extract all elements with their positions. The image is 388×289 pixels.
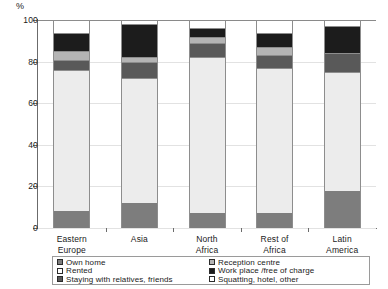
- x-axis-label-line: Asia: [106, 234, 174, 245]
- x-axis-label-line: North: [173, 234, 241, 245]
- legend-item[interactable]: Squatting, hotel, other: [209, 275, 365, 284]
- x-tick-mark: [173, 228, 174, 232]
- bar-segment: [54, 51, 89, 59]
- bar-segment: [54, 33, 89, 52]
- bar-segment: [257, 20, 292, 32]
- legend-item[interactable]: Own home: [57, 258, 209, 267]
- bar-segment: [257, 47, 292, 55]
- x-axis-label-line: Eastern: [38, 234, 106, 245]
- bar-group: [189, 20, 226, 228]
- bar-segment: [122, 24, 157, 57]
- x-tick-mark: [106, 228, 107, 232]
- bar[interactable]: [53, 20, 90, 228]
- legend: Own homeReception centreRentedWork place…: [52, 256, 370, 285]
- bar-segment: [122, 203, 157, 228]
- legend-swatch-icon: [57, 268, 63, 274]
- bar-group: [324, 20, 361, 228]
- bar-group: [53, 20, 90, 228]
- legend-swatch-icon: [57, 276, 63, 282]
- y-tick-label-20: 20: [0, 181, 38, 191]
- legend-item[interactable]: Staying with relatives, friends: [57, 275, 209, 284]
- y-axis-unit-label: %: [16, 1, 24, 11]
- bar-segment: [190, 28, 225, 36]
- bar-segment: [190, 213, 225, 228]
- legend-swatch-icon: [209, 276, 215, 282]
- bar[interactable]: [121, 20, 158, 228]
- bar-segment: [190, 43, 225, 58]
- bar-segment: [54, 60, 89, 70]
- x-axis-label-line: Rest of: [241, 234, 309, 245]
- bar-segment: [122, 62, 157, 79]
- y-tick-label-40: 40: [0, 140, 38, 150]
- legend-item[interactable]: Rented: [57, 267, 209, 276]
- x-axis-label: LatinAmerica: [308, 234, 376, 255]
- x-axis-label-line: America: [308, 245, 376, 256]
- bar[interactable]: [256, 20, 293, 228]
- y-tick-label-100: 100: [0, 15, 38, 25]
- y-tick-label-60: 60: [0, 98, 38, 108]
- bar-segment: [190, 20, 225, 28]
- x-axis-label-line: Europe: [38, 245, 106, 256]
- x-axis-label: NorthAfrica: [173, 234, 241, 255]
- x-axis-label-line: Latin: [308, 234, 376, 245]
- x-axis-label: Rest ofAfrica: [241, 234, 309, 255]
- bar-group: [256, 20, 293, 228]
- bar-segment: [122, 78, 157, 203]
- x-tick-mark: [241, 228, 242, 232]
- x-axis-label-line: Africa: [241, 245, 309, 256]
- bar-segment: [257, 213, 292, 228]
- x-axis-label: Asia: [106, 234, 174, 245]
- bar-segment: [325, 191, 360, 228]
- bar-segment: [325, 72, 360, 191]
- bar-segment: [257, 68, 292, 214]
- bar-segment: [257, 33, 292, 48]
- bar-group: [121, 20, 158, 228]
- bar-segment: [54, 20, 89, 32]
- bar-segment: [54, 70, 89, 211]
- legend-label: Staying with relatives, friends: [66, 275, 173, 284]
- legend-item[interactable]: Reception centre: [209, 258, 365, 267]
- bar-segment: [325, 26, 360, 53]
- legend-swatch-icon: [209, 259, 215, 265]
- bar[interactable]: [324, 20, 361, 228]
- bar-segment: [325, 53, 360, 72]
- legend-label: Squatting, hotel, other: [218, 275, 299, 284]
- gridline-0: [38, 228, 376, 229]
- y-tick-label-0: 0: [0, 223, 38, 233]
- x-axis-label-line: Africa: [173, 245, 241, 256]
- bar-segment: [190, 57, 225, 213]
- bar-segment: [257, 55, 292, 67]
- legend-item[interactable]: Work place /free of charge: [209, 267, 365, 276]
- y-tick-label-80: 80: [0, 57, 38, 67]
- x-axis-label: EasternEurope: [38, 234, 106, 255]
- legend-swatch-icon: [209, 268, 215, 274]
- x-tick-mark: [308, 228, 309, 232]
- bar-segment: [54, 211, 89, 228]
- y-axis-line: [37, 19, 38, 229]
- stacked-bar-chart: % 020406080100 EasternEuropeAsiaNorthAfr…: [0, 0, 388, 289]
- legend-swatch-icon: [57, 259, 63, 265]
- bar[interactable]: [189, 20, 226, 228]
